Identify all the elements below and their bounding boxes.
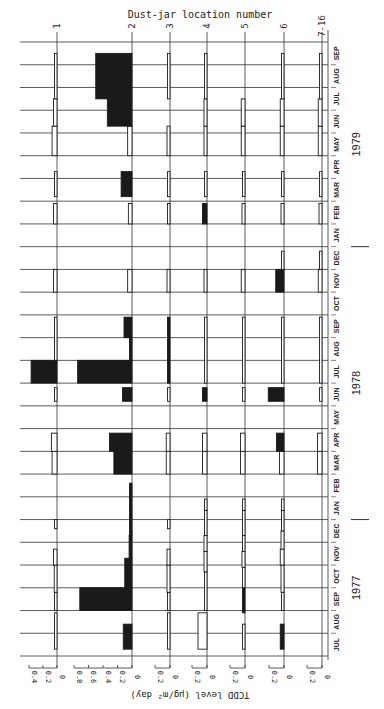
bar-open [320, 251, 323, 269]
month-label: SEP [333, 592, 340, 606]
year-label: 1979 [350, 132, 362, 156]
bar-open [54, 203, 58, 223]
bar-filled [277, 433, 285, 451]
month-label: JUL [333, 92, 340, 106]
bar-open [320, 53, 323, 98]
bar-open [167, 126, 170, 156]
year-labels: 197719781979 [350, 132, 369, 600]
bar-open [243, 535, 246, 551]
bar-open [320, 388, 323, 402]
scale-tick-label: 0 [133, 675, 141, 679]
month-label: SEP [333, 319, 340, 333]
scale-tick-label: 0.4 [104, 671, 112, 684]
month-label: DEC [333, 524, 340, 539]
month-label: JUN [333, 387, 340, 401]
bar-open [168, 388, 171, 402]
month-label: SEP [333, 46, 340, 60]
panel-number-label: 4 [202, 23, 212, 28]
scale-tick-label: 0 [171, 675, 179, 679]
scale-tick-label: 0 [285, 675, 293, 679]
bar-filled [129, 535, 132, 558]
bar-open [168, 613, 171, 649]
scale-tick-label: 0.8 [75, 671, 83, 684]
bar-open [54, 565, 57, 592]
month-label: AUG [333, 341, 340, 357]
bar-open [320, 317, 323, 383]
bar-open [242, 203, 245, 223]
month-label: FEB [333, 206, 340, 220]
bar-open [205, 510, 208, 535]
bar-open [282, 499, 285, 510]
bar-filled [243, 588, 246, 613]
month-label: NOV [333, 273, 340, 289]
bar-open [55, 388, 58, 402]
bar-filled [123, 388, 132, 402]
bar-open [168, 53, 171, 98]
bar-open [203, 433, 208, 451]
bar-open [282, 251, 285, 269]
scale-tick-label: 0.2 [118, 671, 126, 684]
bar-open [55, 317, 58, 360]
bar-open [204, 535, 207, 551]
bar-open [168, 520, 171, 529]
bar-open [282, 172, 285, 197]
year-label: 1978 [350, 371, 362, 395]
month-label: DEC [333, 251, 340, 266]
month-label: AUG [333, 614, 340, 630]
bar-open [318, 451, 323, 474]
bar-open [243, 388, 246, 402]
bar-open [280, 549, 284, 565]
bar-open [241, 99, 245, 126]
bar-open [281, 565, 284, 592]
bar-open [55, 53, 58, 98]
bar-open [282, 317, 285, 383]
bar-filled [107, 99, 132, 126]
bar-open [241, 126, 245, 156]
bar-open [319, 203, 322, 223]
scale-tick-label: 0.2 [44, 671, 52, 684]
month-label: MAY [333, 137, 340, 152]
bar-filled [96, 53, 132, 98]
bar-filled [125, 558, 132, 588]
bar-open [205, 172, 208, 197]
bar-open [280, 99, 284, 126]
month-label: JUN [333, 115, 340, 129]
bar-open [243, 317, 246, 383]
bar-open [281, 203, 284, 223]
bar-open [168, 172, 171, 197]
bar-open [205, 499, 208, 510]
bar-open [318, 126, 322, 156]
bar-filled [203, 203, 208, 223]
panel-axis-title: Dust-jar location number [128, 9, 273, 20]
bar-open [55, 613, 58, 649]
bar-open [198, 613, 207, 649]
scale-tick-label: 0.2 [156, 671, 164, 684]
month-label: JAN [333, 228, 340, 242]
bar-filled [268, 388, 284, 402]
bar-filled [31, 360, 57, 383]
bar-open [55, 172, 58, 197]
panel-number-label: 7-16 [317, 15, 327, 37]
bar-open [168, 203, 171, 223]
bar-open [241, 433, 246, 451]
bar-open [55, 592, 58, 610]
bar-filled [124, 317, 132, 337]
bar-open [282, 53, 285, 98]
bar-open [282, 592, 285, 610]
month-label: FEB [333, 478, 340, 492]
bar-filled [80, 588, 132, 611]
month-label: JUL [333, 364, 340, 378]
bar-open [54, 549, 58, 565]
month-label: AUG [333, 68, 340, 84]
bar-open [167, 549, 170, 565]
bar-open [204, 99, 207, 126]
month-label: MAY [333, 409, 340, 424]
bar-open [280, 126, 284, 156]
scale-tick-label: 0.2 [308, 671, 316, 684]
month-label: APR [333, 433, 340, 448]
bar-open [281, 531, 284, 549]
scale-tick-label: 0 [323, 675, 331, 679]
bar-open [243, 624, 246, 649]
year-label: 1977 [350, 576, 362, 600]
bar-filled [114, 451, 132, 474]
